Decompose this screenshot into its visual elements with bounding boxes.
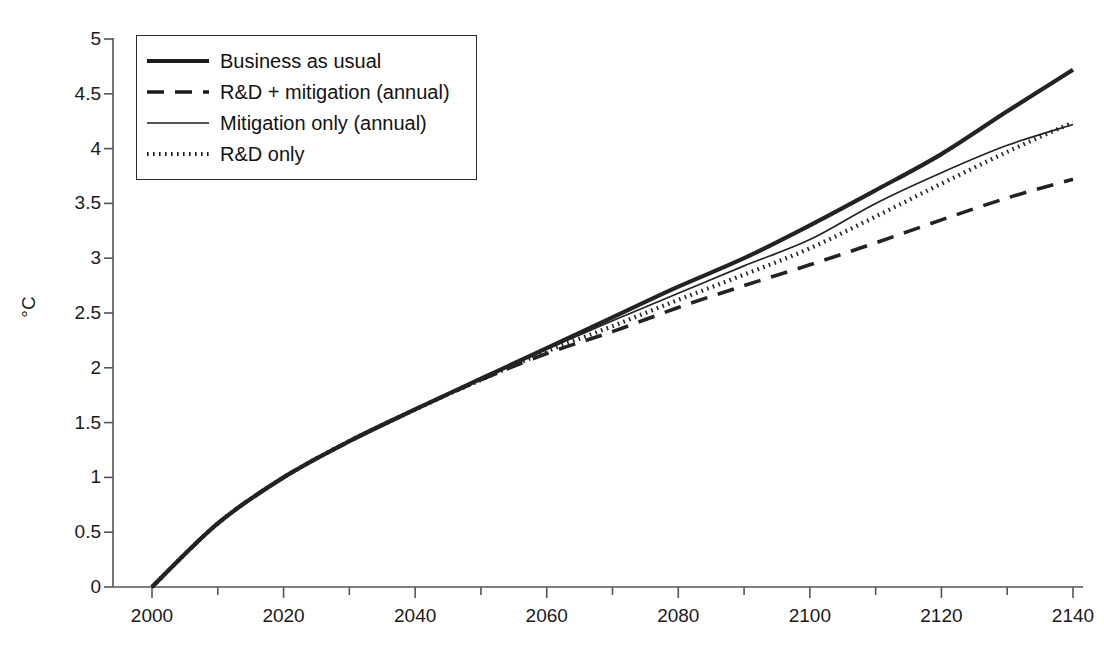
y-tick-label: 3 [41,248,101,267]
y-axis-title: °C [18,296,40,317]
series-line [152,124,1073,587]
y-tick-label: 4.5 [41,84,101,103]
legend-item-label: R&D only [220,144,304,164]
series-line [152,122,1073,587]
x-tick-label: 2100 [765,606,855,625]
legend-item-label: Business as usual [220,51,381,71]
legend-item: R&D only [147,138,466,169]
x-tick-label: 2040 [370,606,460,625]
legend-swatch-solid-thin-icon [147,113,209,133]
legend-swatch-dotted-icon [147,144,209,164]
legend-swatch-solid-thick-icon [147,51,209,71]
y-tick-label: 2 [41,358,101,377]
legend-item: Business as usual [147,45,466,76]
legend-item: Mitigation only (annual) [147,107,466,138]
y-tick-label: 1 [41,467,101,486]
y-tick-label: 0 [41,577,101,596]
y-tick-label: 5 [41,29,101,48]
y-tick-label: 4 [41,139,101,158]
x-tick-label: 2120 [896,606,986,625]
y-tick-label: 0.5 [41,522,101,541]
legend-item-label: Mitigation only (annual) [220,113,427,133]
x-tick-label: 2080 [633,606,723,625]
x-tick-label: 2020 [239,606,329,625]
temperature-projection-chart: °C 00.511.522.533.544.55 200020202040206… [0,0,1104,658]
y-tick-label: 2.5 [41,303,101,322]
legend-item: R&D + mitigation (annual) [147,76,466,107]
legend-swatch-dashed-icon [147,82,209,102]
y-tick-label: 1.5 [41,413,101,432]
series-line [152,179,1073,587]
legend-item-label: R&D + mitigation (annual) [220,82,450,102]
y-tick-label: 3.5 [41,193,101,212]
x-tick-label: 2060 [502,606,592,625]
x-tick-label: 2140 [1028,606,1104,625]
legend: Business as usualR&D + mitigation (annua… [136,35,477,180]
x-tick-label: 2000 [107,606,197,625]
